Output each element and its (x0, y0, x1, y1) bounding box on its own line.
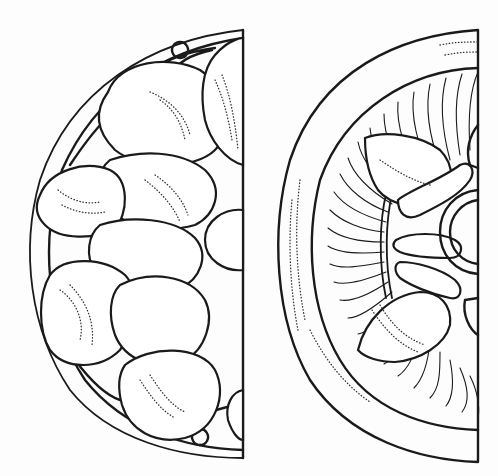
right-medallion (278, 30, 478, 462)
medallion-drawing (0, 0, 498, 476)
left-medallion (30, 30, 243, 458)
illustration-canvas (0, 0, 498, 476)
